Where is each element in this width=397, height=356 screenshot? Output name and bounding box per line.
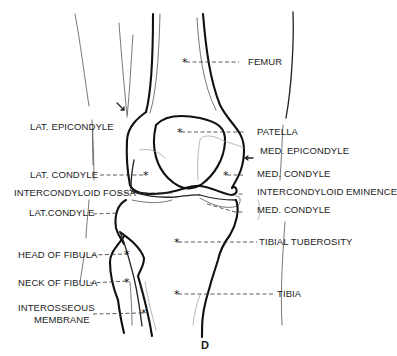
label-lat-condyle-femur: LAT. CONDYLE (30, 170, 98, 180)
label-intercondyloid-eminence: INTERCONDYLOID EMINENCE (257, 187, 397, 197)
svg-text:*: * (124, 248, 130, 261)
figure-caption: D (201, 339, 209, 351)
label-med-epicondyle: MED. EPICONDYLE (260, 146, 349, 156)
svg-text:*: * (223, 169, 229, 182)
label-tibial-tuberosity: TIBIAL TUBEROSITY (259, 237, 353, 247)
label-med-condyle-tibia: MED. CONDYLE (257, 205, 331, 215)
label-intercondyloid-fossa: INTERCONDYLOID FOSSA (14, 188, 136, 198)
marker-femur: * (182, 56, 188, 69)
label-membrane: MEMBRANE (34, 315, 90, 325)
label-head-of-fibula: HEAD OF FIBULA (18, 250, 98, 260)
svg-text:*: * (174, 288, 180, 301)
label-interosseous: INTEROSSEOUS (18, 303, 95, 313)
label-tibia: TIBIA (277, 289, 301, 299)
label-neck-of-fibula: NECK OF FIBULA (18, 278, 98, 288)
label-patella: PATELLA (257, 127, 298, 137)
label-lat-epicondyle: LAT. EPICONDYLE (30, 122, 114, 132)
marker-patella: * (177, 126, 183, 139)
svg-text:*: * (124, 276, 130, 289)
svg-text:*: * (143, 169, 149, 182)
svg-text:*: * (174, 236, 180, 249)
svg-text:*: * (141, 307, 147, 320)
label-lat-condyle-tibia: LAT.CONDYLE (29, 208, 94, 218)
label-med-condyle-femur: MED. CONDYLE (257, 169, 331, 179)
label-femur: FEMUR (248, 57, 282, 67)
